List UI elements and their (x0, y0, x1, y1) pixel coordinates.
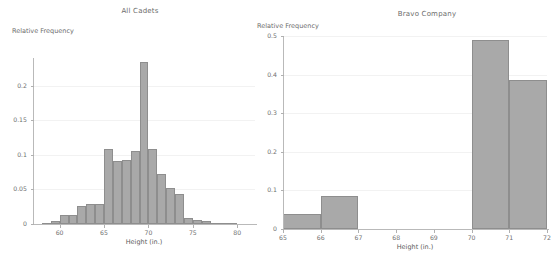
y-tick-mark (31, 155, 34, 156)
x-tick-mark (60, 225, 61, 228)
y-tick-label: 0.3 (257, 109, 277, 116)
histogram-bar (104, 149, 113, 224)
histogram-bar (140, 62, 149, 224)
y-tick-mark (281, 152, 284, 153)
histogram-bar (69, 215, 78, 224)
x-tick-mark (193, 225, 194, 228)
chart-title-all-cadets: All Cadets (70, 7, 210, 15)
y-tick-label: 0.2 (257, 148, 277, 155)
y-tick-label: 0.05 (7, 185, 27, 192)
x-tick-label: 66 (311, 234, 331, 241)
histogram-bar (86, 204, 95, 224)
x-axis-label-all-cadets: Height (in.) (33, 238, 255, 246)
histogram-figure-pair: All Cadets Relative Frequency 00.050.10.… (0, 0, 554, 267)
histogram-bar (113, 161, 122, 224)
x-tick-mark (472, 230, 473, 233)
chart-panel-all-cadets: All Cadets Relative Frequency 00.050.10.… (0, 0, 277, 267)
y-tick-mark (31, 189, 34, 190)
histogram-bar (95, 204, 104, 224)
x-tick-mark (434, 230, 435, 233)
y-tick-mark (281, 36, 284, 37)
histogram-bar (166, 188, 175, 224)
plot-area-all-cadets: 00.050.10.150.26065707580 (33, 58, 255, 224)
x-tick-label: 65 (94, 229, 114, 236)
y-tick-mark (31, 224, 34, 225)
histogram-bar (472, 40, 510, 229)
x-tick-label: 60 (50, 229, 70, 236)
x-tick-mark (148, 225, 149, 228)
y-axis-label-bravo-company: Relative Frequency (257, 22, 319, 30)
x-tick-mark (104, 225, 105, 228)
x-tick-mark (396, 230, 397, 233)
y-tick-mark (31, 86, 34, 87)
gridline (283, 36, 547, 37)
x-tick-label: 67 (348, 234, 368, 241)
histogram-bar (157, 174, 166, 224)
x-tick-label: 80 (227, 229, 247, 236)
x-tick-label: 71 (499, 234, 519, 241)
histogram-bar (122, 160, 131, 224)
histogram-bar (175, 194, 184, 224)
y-tick-mark (281, 113, 284, 114)
histogram-bar (77, 206, 86, 224)
x-tick-label: 65 (273, 234, 293, 241)
y-tick-label: 0 (7, 220, 27, 227)
x-tick-mark (283, 230, 284, 233)
x-axis-line (33, 224, 257, 225)
x-tick-mark (358, 230, 359, 233)
y-axis-line (283, 36, 284, 230)
y-axis-label-all-cadets: Relative Frequency (12, 27, 74, 35)
histogram-bar (148, 149, 157, 224)
chart-title-bravo-company: Bravo Company (337, 10, 517, 18)
x-tick-label: 70 (138, 229, 158, 236)
x-tick-mark (237, 225, 238, 228)
y-tick-label: 0.15 (7, 116, 27, 123)
histogram-bar (131, 151, 140, 224)
x-axis-label-bravo-company: Height (in.) (283, 243, 547, 251)
x-tick-label: 75 (183, 229, 203, 236)
x-tick-mark (321, 230, 322, 233)
y-tick-label: 0.4 (257, 71, 277, 78)
x-tick-label: 69 (424, 234, 444, 241)
x-tick-label: 72 (537, 234, 554, 241)
x-tick-label: 68 (386, 234, 406, 241)
x-tick-mark (509, 230, 510, 233)
histogram-bar (283, 214, 321, 229)
y-axis-line (33, 58, 34, 225)
plot-area-bravo-company: 00.10.20.30.40.56566676869707172 (283, 36, 547, 229)
y-tick-label: 0.1 (257, 186, 277, 193)
histogram-bar (509, 80, 547, 229)
x-tick-label: 70 (462, 234, 482, 241)
y-tick-mark (281, 75, 284, 76)
y-tick-label: 0 (257, 225, 277, 232)
histogram-bar (321, 196, 359, 229)
x-tick-mark (547, 230, 548, 233)
histogram-bar (60, 215, 69, 224)
y-tick-label: 0.2 (7, 82, 27, 89)
y-tick-label: 0.5 (257, 32, 277, 39)
y-tick-mark (281, 190, 284, 191)
y-tick-label: 0.1 (7, 151, 27, 158)
chart-panel-bravo-company: Bravo Company Relative Frequency 00.10.2… (277, 0, 554, 267)
y-tick-mark (31, 120, 34, 121)
